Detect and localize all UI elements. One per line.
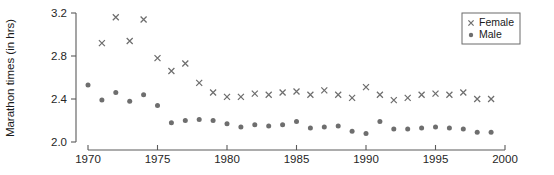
legend-group: FemaleMale: [462, 13, 520, 44]
data-point-male: [419, 126, 424, 131]
y-axis-tick-label: 3.2: [51, 7, 67, 19]
data-point-male: [238, 124, 243, 129]
data-point-female: [294, 88, 300, 94]
data-point-male: [461, 127, 466, 132]
data-point-male: [336, 123, 341, 128]
data-point-male: [433, 124, 438, 129]
data-point-female: [391, 97, 397, 103]
data-point-female: [141, 16, 147, 22]
data-point-male: [183, 118, 188, 123]
data-point-male: [266, 123, 271, 128]
data-point-male: [364, 131, 369, 136]
data-point-male: [447, 126, 452, 131]
chart-canvas: 2.02.42.83.2 197019751980198519901995200…: [0, 0, 554, 175]
data-point-female: [196, 80, 202, 86]
y-axis-tick-label: 2.8: [51, 50, 67, 62]
data-point-female: [168, 68, 174, 74]
dot-marker-icon: [469, 33, 473, 37]
y-axis-group: 2.02.42.83.2: [51, 7, 76, 148]
data-point-female: [238, 94, 244, 100]
data-point-female: [113, 14, 119, 20]
data-point-female: [405, 95, 411, 101]
data-point-female: [266, 92, 272, 98]
data-point-female: [155, 55, 161, 61]
data-point-female: [321, 87, 327, 93]
x-axis-tick-label: 1995: [423, 153, 449, 165]
legend-entry-label: Male: [479, 28, 502, 40]
x-axis-tick-label: 1980: [214, 153, 240, 165]
data-point-male: [308, 126, 313, 131]
data-point-female: [419, 92, 425, 98]
data-point-male: [86, 83, 91, 88]
data-point-male: [113, 90, 118, 95]
data-point-male: [225, 121, 230, 126]
data-point-male: [155, 103, 160, 108]
data-point-female: [446, 92, 452, 98]
data-point-female: [210, 90, 216, 96]
data-point-female: [488, 96, 494, 102]
data-point-male: [99, 98, 104, 103]
data-point-male: [391, 127, 396, 132]
data-point-male: [475, 130, 480, 135]
legend-entry-label: Female: [479, 16, 514, 28]
data-point-female: [460, 90, 466, 96]
data-point-male: [377, 119, 382, 124]
data-point-male: [127, 99, 132, 104]
x-axis-tick-label: 1975: [145, 153, 171, 165]
marathon-times-scatter-figure: 2.02.42.83.2 197019751980198519901995200…: [0, 0, 554, 175]
data-point-female: [377, 92, 383, 98]
y-axis-tick-label: 2.0: [51, 136, 67, 148]
data-point-female: [349, 95, 355, 101]
data-point-male: [322, 124, 327, 129]
data-point-female: [252, 91, 258, 97]
data-point-male: [489, 130, 494, 135]
y-axis-label: Marathon times (in hrs): [4, 19, 16, 137]
data-point-male: [197, 117, 202, 122]
data-point-female: [127, 38, 133, 44]
x-axis-tick-label: 1990: [353, 153, 379, 165]
x-axis-tick-label: 1985: [284, 153, 310, 165]
data-point-male: [141, 92, 146, 97]
data-point-male: [211, 118, 216, 123]
data-point-female: [224, 94, 230, 100]
data-point-male: [252, 122, 257, 127]
x-axis-tick-label: 2000: [492, 153, 518, 165]
data-point-male: [405, 127, 410, 132]
y-axis-tick-label: 2.4: [51, 93, 68, 105]
data-point-female: [474, 96, 480, 102]
x-axis-group: 1970197519801985199019952000: [75, 145, 518, 165]
data-point-female: [182, 61, 188, 67]
data-points-group: [86, 14, 495, 136]
data-point-male: [280, 122, 285, 127]
data-point-female: [433, 91, 439, 97]
data-point-female: [280, 90, 286, 96]
x-axis-tick-label: 1970: [75, 153, 101, 165]
data-point-male: [294, 119, 299, 124]
data-point-male: [350, 129, 355, 134]
data-point-female: [363, 84, 369, 90]
data-point-female: [335, 92, 341, 98]
data-point-female: [99, 40, 105, 46]
data-point-male: [169, 120, 174, 125]
data-point-female: [307, 92, 313, 98]
